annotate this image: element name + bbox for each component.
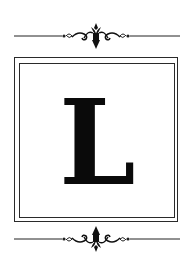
monogram-letter: L [59, 84, 135, 202]
inner-frame: L [19, 63, 175, 218]
bottom-flourish-divider [0, 224, 192, 254]
flourish-icon [0, 21, 192, 51]
top-flourish-divider [0, 21, 192, 51]
flourish-icon [0, 224, 192, 254]
